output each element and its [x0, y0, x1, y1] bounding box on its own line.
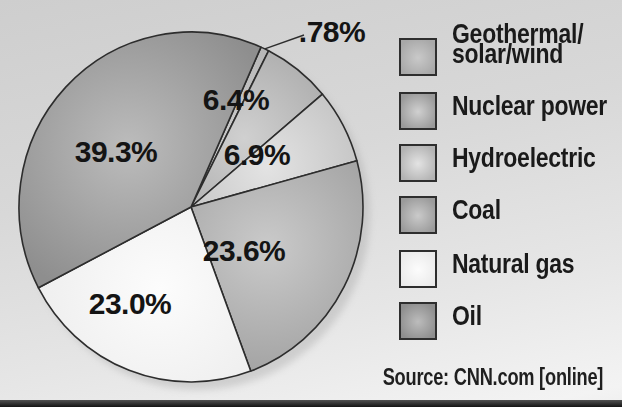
figure-canvas: .78%6.4%6.9%23.6%23.0%39.3% Geothermal/s…	[0, 0, 622, 407]
bottom-rule	[0, 400, 622, 407]
pie-value-label-coal: 23.6%	[203, 234, 286, 267]
pie-value-label-geothermal-solar-wind: .78%	[299, 15, 365, 48]
pie-value-label-hydroelectric: 6.9%	[224, 138, 290, 171]
source-text: Source: CNN.com [online]	[382, 363, 603, 391]
pie-value-label-natural-gas: 23.0%	[89, 287, 172, 320]
pie-value-label-nuclear-power: 6.4%	[203, 83, 269, 116]
pie-svg: .78%6.4%6.9%23.6%23.0%39.3%	[0, 0, 622, 407]
pie-slices	[19, 32, 363, 382]
pie-value-label-oil: 39.3%	[75, 135, 158, 168]
